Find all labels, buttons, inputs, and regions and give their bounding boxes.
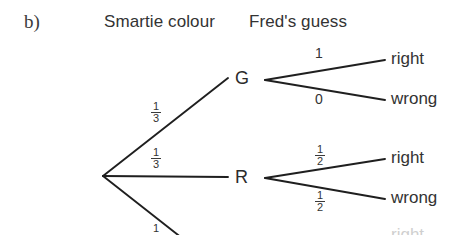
probability-green-wrong: 0	[315, 92, 323, 106]
outcome-green-right: right	[391, 50, 424, 67]
probability-root-to-red: 1 3	[151, 147, 161, 170]
fraction: 1 2	[315, 190, 325, 213]
tree-diagram-figure: b) Smartie colour Fred's guess G R right…	[0, 0, 466, 235]
branch-green-to-wrong	[265, 80, 385, 100]
branch-root-to-red	[103, 176, 228, 177]
probability-root-to-green: 1 3	[151, 101, 161, 124]
probability-green-right: 1	[315, 46, 323, 60]
outcome-third-right-cropped: right	[391, 226, 424, 235]
probability-red-right: 1 2	[315, 144, 325, 167]
column-heading-stage-2: Fred's guess	[249, 13, 347, 30]
node-red: R	[235, 168, 248, 186]
column-heading-stage-1: Smartie colour	[104, 13, 215, 30]
outcome-green-wrong: wrong	[391, 90, 437, 107]
node-green: G	[235, 69, 249, 87]
fraction: 1 3	[151, 101, 161, 124]
branch-green-to-right	[265, 60, 385, 80]
outcome-red-right: right	[391, 149, 424, 166]
fraction: 1	[151, 223, 161, 234]
branch-root-to-green	[103, 78, 228, 176]
outcome-red-wrong: wrong	[391, 189, 437, 206]
probability-root-to-third-cropped: 1	[151, 221, 161, 234]
fraction: 1 2	[315, 144, 325, 167]
part-label: b)	[24, 12, 40, 31]
probability-red-wrong: 1 2	[315, 190, 325, 213]
fraction: 1 3	[151, 147, 161, 170]
